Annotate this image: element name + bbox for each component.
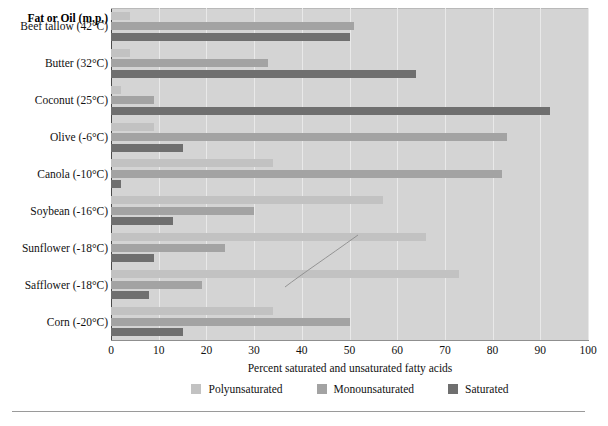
x-tick-label-0: 0: [108, 344, 114, 356]
bar-group: [111, 192, 588, 229]
legend-item-polyunsaturated: Polyunsaturated: [191, 383, 282, 395]
x-tick-label-90: 90: [535, 344, 547, 356]
y-axis-label-6: Sunflower (-18°C): [0, 242, 108, 254]
x-tick-label-100: 100: [579, 344, 596, 356]
bar-monounsaturated: [111, 207, 254, 215]
plot-bottom-border: [111, 340, 589, 341]
y-axis-label-8: Corn (-20°C): [0, 316, 108, 328]
bar-saturated: [111, 70, 416, 78]
figure-chart-fat-composition: Fat or Oil (m.p.) Beef tallow (42°C)Butt…: [0, 0, 608, 426]
bar-monounsaturated: [111, 318, 350, 326]
bar-group: [111, 229, 588, 266]
bar-monounsaturated: [111, 59, 268, 67]
bar-group: [111, 82, 588, 119]
bar-polyunsaturated: [111, 196, 383, 204]
bar-polyunsaturated: [111, 49, 130, 57]
bar-group: [111, 266, 588, 303]
x-tick-label-50: 50: [344, 344, 356, 356]
y-axis-label-2: Coconut (25°C): [0, 94, 108, 106]
bar-monounsaturated: [111, 244, 225, 252]
bar-group: [111, 156, 588, 193]
x-tick-label-10: 10: [153, 344, 165, 356]
legend-label: Polyunsaturated: [208, 383, 282, 395]
bottom-divider: [12, 411, 585, 412]
bar-saturated: [111, 254, 154, 262]
y-axis-label-5: Soybean (-16°C): [0, 205, 108, 217]
x-tick-label-70: 70: [439, 344, 451, 356]
y-axis-label-7: Safflower (-18°C): [0, 279, 108, 291]
gridline-100: [588, 8, 589, 340]
y-axis-labels: Fat or Oil (m.p.) Beef tallow (42°C)Butt…: [0, 0, 108, 426]
bar-group: [111, 8, 588, 45]
y-axis-label-0: Beef tallow (42°C): [0, 20, 108, 32]
legend-label: Saturated: [465, 383, 508, 395]
x-tick-label-40: 40: [296, 344, 308, 356]
bar-monounsaturated: [111, 133, 507, 141]
bar-saturated: [111, 217, 173, 225]
bar-group: [111, 119, 588, 156]
legend-swatch-icon: [191, 384, 201, 394]
x-tick-label-80: 80: [487, 344, 499, 356]
x-tick-label-60: 60: [391, 344, 403, 356]
bar-polyunsaturated: [111, 307, 273, 315]
legend-swatch-icon: [317, 384, 327, 394]
bar-saturated: [111, 180, 121, 188]
legend-item-saturated: Saturated: [448, 383, 508, 395]
bar-saturated: [111, 291, 149, 299]
y-axis-label-3: Olive (-6°C): [0, 131, 108, 143]
x-axis-title: Percent saturated and unsaturated fatty …: [111, 362, 589, 374]
legend-label: Monounsaturated: [334, 383, 414, 395]
bar-polyunsaturated: [111, 233, 426, 241]
bar-polyunsaturated: [111, 159, 273, 167]
bar-group: [111, 303, 588, 340]
bar-monounsaturated: [111, 170, 502, 178]
y-axis-label-4: Canola (-10°C): [0, 168, 108, 180]
legend-swatch-icon: [448, 384, 458, 394]
bar-saturated: [111, 107, 550, 115]
bar-monounsaturated: [111, 281, 202, 289]
bar-polyunsaturated: [111, 270, 459, 278]
x-tick-label-30: 30: [248, 344, 260, 356]
bar-group: [111, 45, 588, 82]
bar-polyunsaturated: [111, 86, 121, 94]
bar-polyunsaturated: [111, 12, 130, 20]
bar-saturated: [111, 328, 183, 336]
bar-saturated: [111, 33, 350, 41]
bar-saturated: [111, 144, 183, 152]
x-axis-ticks: 0102030405060708090100: [0, 344, 608, 360]
bar-monounsaturated: [111, 96, 154, 104]
legend-item-monounsaturated: Monounsaturated: [317, 383, 414, 395]
bar-polyunsaturated: [111, 123, 154, 131]
legend: PolyunsaturatedMonounsaturatedSaturated: [111, 381, 589, 397]
bar-monounsaturated: [111, 22, 354, 30]
x-tick-label-20: 20: [201, 344, 213, 356]
y-axis-label-1: Butter (32°C): [0, 57, 108, 69]
